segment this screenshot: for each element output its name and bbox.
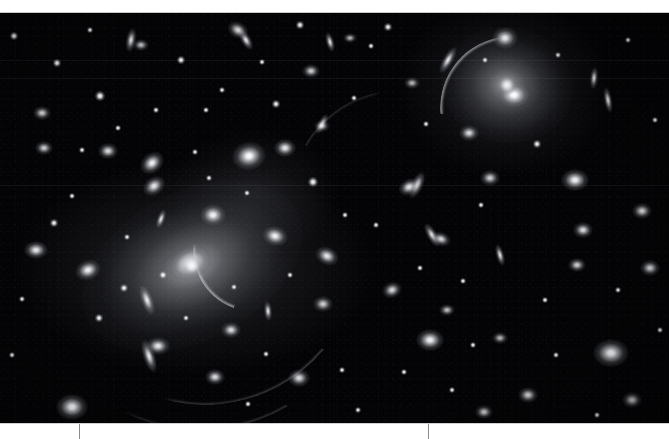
top-edge-line: [0, 12, 669, 13]
axis-tick: [428, 424, 429, 439]
axis-tick: [79, 424, 80, 439]
bottom-margin: [0, 423, 669, 439]
figure-canvas: [0, 0, 669, 439]
image-vignette: [0, 13, 669, 423]
axis-line: [0, 423, 669, 424]
sky-image: [0, 13, 669, 423]
